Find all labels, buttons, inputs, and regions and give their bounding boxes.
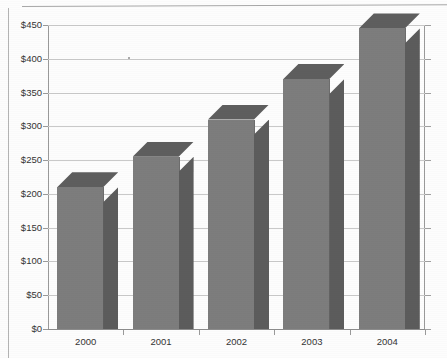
x-axis-tick-label: 2002 [207,336,267,347]
bar-front-face [133,157,180,329]
x-axis-tick [123,330,124,335]
y-axis-line [48,26,49,330]
y-axis-tick-label: $100 [4,255,42,266]
right-axis-tick [425,261,431,262]
chart-plot-area [48,26,425,330]
right-axis-tick [425,194,431,195]
bar-front-face [208,120,255,329]
right-axis-tick [425,160,431,161]
x-axis-line [48,329,425,330]
y-axis-tick-label: $50 [4,289,42,300]
page-edge-left-line [8,8,9,358]
y-axis-tick [43,228,48,229]
x-axis-tick [425,330,426,335]
right-axis-tick [425,295,431,296]
page-edge-top-line [22,4,447,7]
bar-top-face [208,105,269,120]
right-axis-tick [425,59,431,60]
bar-side-face [329,79,344,329]
y-axis-tick [43,93,48,94]
right-axis-line [424,26,425,330]
right-axis-tick [425,25,431,26]
x-axis-tick [350,330,351,335]
bar-side-face [179,157,194,329]
x-axis-tick-label: 2000 [56,336,116,347]
bar-front-face [359,28,406,329]
bar-column [133,142,194,329]
x-axis-tick-label: 2001 [131,336,191,347]
y-axis-tick [43,59,48,60]
bar-column [208,105,269,329]
x-axis-tick [274,330,275,335]
y-axis-tick-label: $0 [4,323,42,334]
bar-side-face [254,120,269,329]
bar-column [359,13,420,329]
bar-top-face [57,172,118,187]
y-axis-tick [43,194,48,195]
bar-column [283,64,344,329]
scanned-chart-page: $0$50$100$150$200$250$300$350$400$450 20… [0,0,447,358]
x-axis-tick-label: 2004 [357,336,417,347]
right-axis-tick [425,93,431,94]
y-axis-tick-label: $200 [4,188,42,199]
bar-front-face [57,187,104,329]
y-axis-tick [43,329,48,330]
x-axis-tick-label: 2003 [282,336,342,347]
y-axis-tick-label: $300 [4,120,42,131]
y-axis-tick [43,295,48,296]
bar-side-face [405,28,420,329]
bar-top-face [283,64,344,79]
x-axis-labels: 20002001200220032004 [48,336,425,350]
bar-top-face [359,13,420,28]
y-axis-tick [43,160,48,161]
y-axis-tick-label: $150 [4,222,42,233]
y-axis-tick [43,25,48,26]
x-axis-tick [199,330,200,335]
right-axis-tick [425,228,431,229]
bar-top-face [133,142,194,157]
y-axis-tick-label: $250 [4,154,42,165]
bar-side-face [103,187,118,329]
y-axis-tick [43,261,48,262]
y-axis-tick [43,126,48,127]
y-axis-tick-label: $400 [4,53,42,64]
bar-column [57,172,118,329]
bar-front-face [283,79,330,329]
y-axis-tick-label: $350 [4,87,42,98]
right-axis-tick [425,126,431,127]
y-axis-tick-label: $450 [4,19,42,30]
